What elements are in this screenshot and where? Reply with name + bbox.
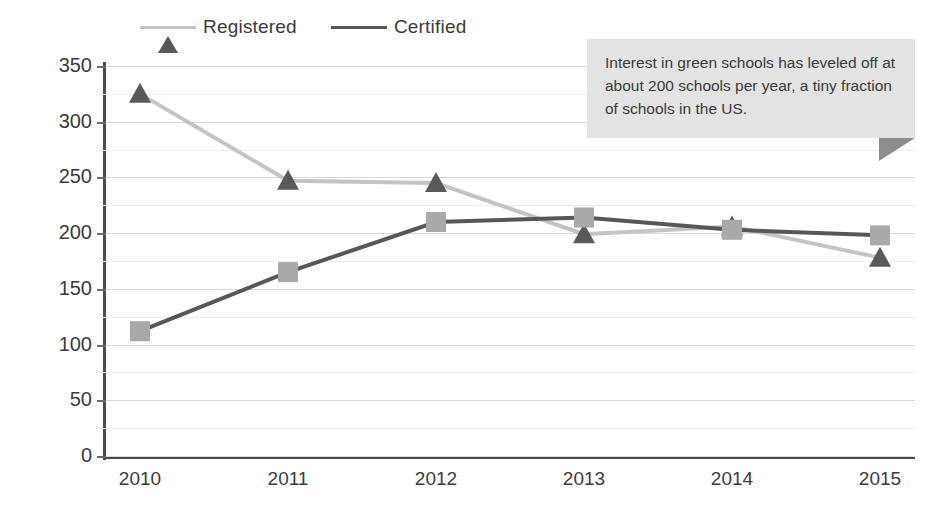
- y-axis-tick-label: 250: [6, 165, 92, 188]
- x-axis-tick-label: 2010: [119, 468, 161, 490]
- annotation-callout-tail: [879, 138, 915, 161]
- data-point-registered-2010[interactable]: [129, 83, 151, 103]
- data-point-certified-2014[interactable]: [722, 220, 742, 240]
- y-axis-tick: [97, 177, 106, 179]
- y-axis-tick-label: 100: [6, 333, 92, 356]
- y-axis-tick: [97, 456, 106, 458]
- legend-label-registered: Registered: [203, 16, 297, 38]
- data-point-certified-2015[interactable]: [870, 225, 890, 245]
- legend-item-registered[interactable]: Registered: [140, 16, 297, 38]
- legend-item-certified[interactable]: Certified: [331, 16, 467, 38]
- y-axis-tick-label: 350: [6, 54, 92, 77]
- data-point-certified-2013[interactable]: [574, 208, 594, 228]
- line-chart: Registered Certified 0501001502002503003…: [0, 0, 937, 514]
- y-axis-tick: [97, 122, 106, 124]
- data-point-certified-2010[interactable]: [130, 321, 150, 341]
- data-point-certified-2012[interactable]: [426, 212, 446, 232]
- y-axis-tick-label: 0: [6, 444, 92, 467]
- chart-legend: Registered Certified: [140, 13, 466, 41]
- x-axis-tick-label: 2015: [859, 468, 901, 490]
- y-axis-labels: 050100150200250300350: [0, 0, 92, 514]
- gridline-major: [103, 456, 915, 457]
- y-axis-tick: [97, 233, 106, 235]
- y-axis-tick: [97, 345, 106, 347]
- y-axis-tick-label: 150: [6, 277, 92, 300]
- y-axis-tick: [97, 289, 106, 291]
- triangle-marker-icon: [140, 16, 196, 38]
- y-axis-tick: [97, 400, 106, 402]
- x-axis-tick-label: 2011: [268, 468, 309, 490]
- x-axis-tick-label: 2014: [711, 468, 753, 490]
- x-axis-tick-label: 2012: [415, 468, 457, 490]
- legend-label-certified: Certified: [394, 16, 467, 38]
- annotation-callout: Interest in green schools has leveled of…: [587, 39, 915, 138]
- square-marker-icon: [331, 16, 387, 38]
- y-axis-tick-label: 50: [6, 388, 92, 411]
- y-axis-tick-label: 200: [6, 221, 92, 244]
- data-point-certified-2011[interactable]: [278, 262, 298, 282]
- y-axis-tick-label: 300: [6, 110, 92, 133]
- y-axis-tick: [97, 66, 106, 68]
- annotation-text: Interest in green schools has leveled of…: [605, 51, 899, 120]
- x-axis-tick-label: 2013: [563, 468, 605, 490]
